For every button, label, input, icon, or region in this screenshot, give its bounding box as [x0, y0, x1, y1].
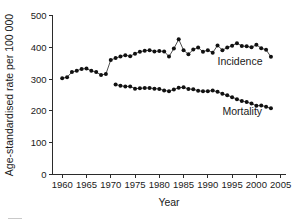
data-point [114, 83, 118, 87]
data-point [230, 95, 234, 99]
data-point [70, 70, 74, 74]
x-axis-group: 1960196519701975198019851990199520002005… [52, 175, 292, 208]
data-point [133, 52, 137, 56]
data-point [196, 89, 200, 93]
series-label-layer: IncidenceMortality [218, 55, 263, 118]
data-point [216, 43, 220, 47]
data-point [143, 86, 147, 90]
data-point [167, 89, 171, 93]
data-point [162, 89, 166, 93]
y-tick-label: 0 [41, 169, 46, 180]
data-point [114, 56, 118, 60]
x-tick-label: 1980 [149, 179, 170, 190]
data-point [118, 84, 122, 88]
data-point [123, 84, 127, 88]
data-point [123, 53, 127, 57]
data-point [186, 87, 190, 91]
data-point [94, 70, 98, 74]
data-point [89, 69, 93, 73]
data-point [211, 51, 215, 55]
x-tick-label: 1975 [124, 179, 145, 190]
data-point [172, 47, 176, 51]
y-tick-label: 200 [31, 105, 47, 116]
data-point [201, 50, 205, 54]
incidence-mortality-line-chart: 0100200300400500 Age-standardised rate p… [0, 0, 306, 221]
data-point [128, 84, 132, 88]
data-point [182, 85, 186, 89]
data-point [230, 44, 234, 48]
x-axis-title: Year [158, 196, 180, 208]
data-point [250, 45, 254, 49]
data-point [259, 46, 263, 50]
data-point [240, 99, 244, 103]
y-axis-group: 0100200300400500 Age-standardised rate p… [3, 10, 53, 180]
data-point [269, 106, 273, 110]
data-point [84, 67, 88, 71]
data-point [157, 87, 161, 91]
data-point [264, 48, 268, 52]
data-point [191, 87, 195, 91]
data-point [128, 54, 132, 58]
x-tick-label: 2000 [246, 179, 267, 190]
data-point [196, 46, 200, 50]
data-point [216, 90, 220, 94]
caption-rule-fragment [8, 218, 22, 219]
data-point [206, 48, 210, 52]
data-point [60, 76, 64, 80]
data-point [186, 52, 190, 56]
x-tick-label: 1990 [197, 179, 218, 190]
data-point [75, 69, 79, 73]
data-point [80, 67, 84, 71]
series-label-incidence: Incidence [218, 55, 263, 67]
data-point [172, 88, 176, 92]
data-point [152, 87, 156, 91]
x-tick-label: 1960 [52, 179, 73, 190]
data-point [235, 41, 239, 45]
data-point [104, 72, 108, 76]
data-point [133, 87, 137, 91]
y-axis-title: Age-standardised rate per 100 000 [3, 14, 15, 176]
data-point [201, 89, 205, 93]
data-point [225, 46, 229, 50]
data-point [167, 55, 171, 59]
data-point [177, 37, 181, 41]
data-point [148, 48, 152, 52]
data-point [109, 58, 113, 62]
data-point [138, 50, 142, 54]
y-tick-group: 0100200300400500 [31, 10, 53, 180]
y-tick-label: 300 [31, 74, 47, 85]
data-point [191, 48, 195, 52]
y-tick-label: 100 [31, 137, 47, 148]
series-label-mortality: Mortality [222, 105, 262, 117]
data-point [162, 49, 166, 53]
data-point [254, 43, 258, 47]
x-tick-label: 2005 [270, 179, 291, 190]
series-layer [60, 37, 273, 110]
x-tick-label: 1995 [222, 179, 243, 190]
data-point [152, 49, 156, 53]
data-point [118, 55, 122, 59]
data-point [245, 44, 249, 48]
data-point [138, 86, 142, 90]
data-point [211, 89, 215, 93]
data-point [240, 44, 244, 48]
y-tick-label: 500 [31, 10, 47, 21]
data-point [245, 100, 249, 104]
x-tick-label: 1970 [100, 179, 121, 190]
data-point [225, 93, 229, 97]
data-point [264, 105, 268, 109]
figure-container: 0100200300400500 Age-standardised rate p… [0, 0, 306, 221]
data-point [206, 89, 210, 93]
data-point [220, 48, 224, 52]
x-tick-group: 1960196519701975198019851990199520002005 [52, 175, 292, 191]
data-point [148, 86, 152, 90]
data-point [65, 75, 69, 79]
y-tick-label: 400 [31, 42, 47, 53]
data-point [157, 49, 161, 53]
data-point [269, 55, 273, 59]
data-point [99, 73, 103, 77]
data-point [177, 86, 181, 90]
x-tick-label: 1965 [76, 179, 97, 190]
data-point [143, 49, 147, 53]
data-point [235, 97, 239, 101]
